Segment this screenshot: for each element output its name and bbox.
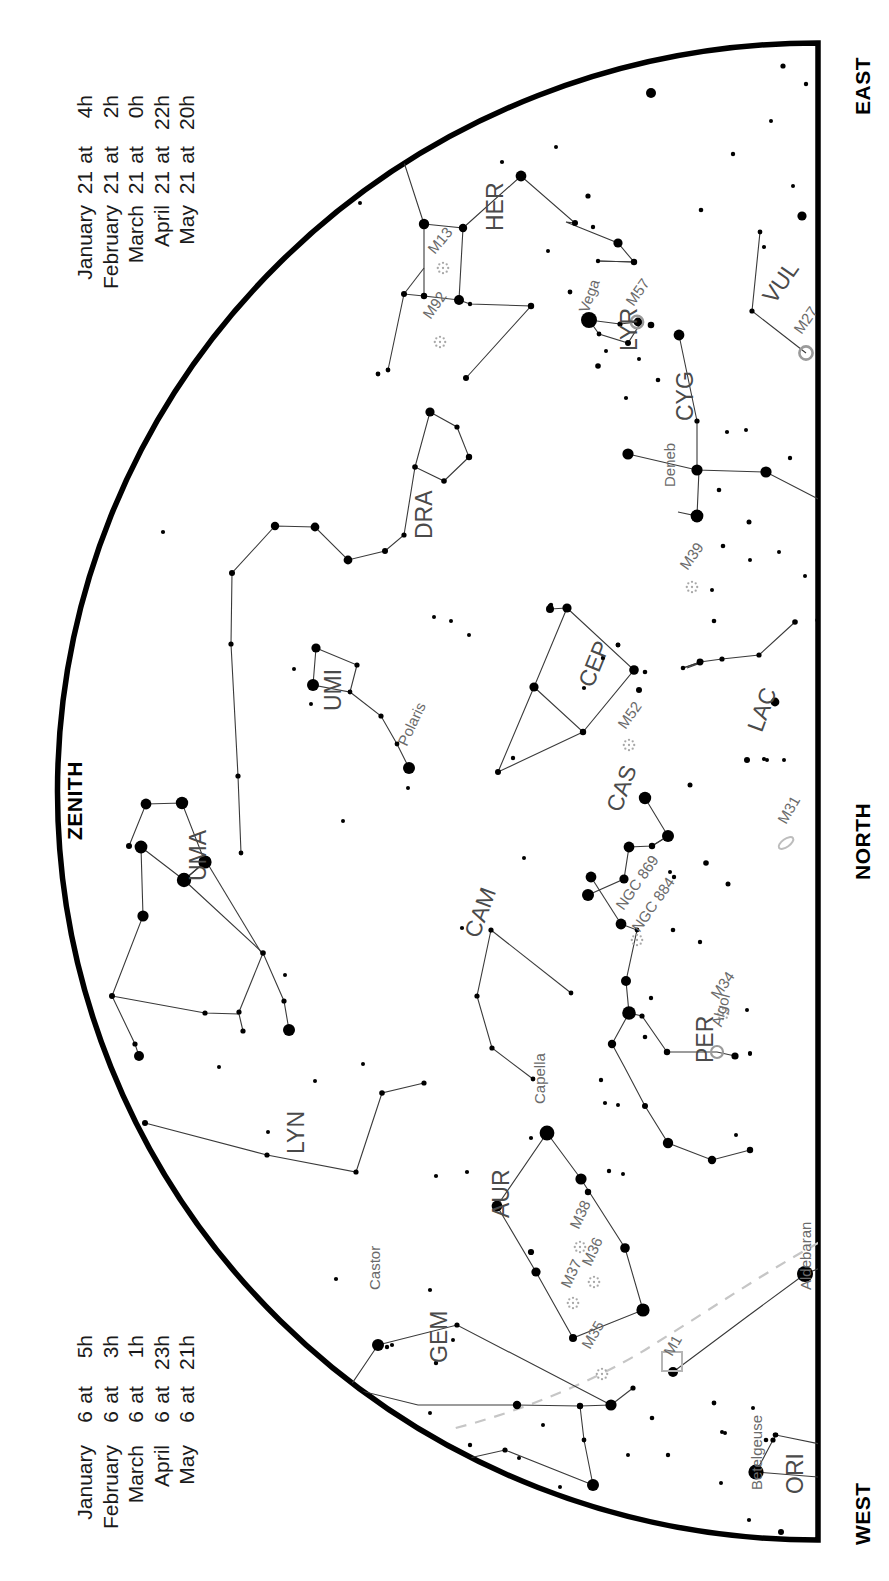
epoch-row: March6at1h bbox=[123, 1335, 149, 1545]
epoch-time: 4h bbox=[72, 95, 98, 139]
epoch-time: 22h bbox=[149, 95, 175, 139]
epoch-row: April21at22h bbox=[149, 95, 175, 305]
epoch-day: 6 bbox=[72, 1411, 98, 1445]
star-label-aldebaran: Aldebaran bbox=[797, 1222, 814, 1290]
star-label-betelgeuse: Betelgeuse bbox=[748, 1415, 765, 1490]
constellation-label-gem: GEM bbox=[426, 1311, 453, 1363]
constellation-label-cyg: CYG bbox=[672, 371, 699, 421]
epoch-at: at bbox=[123, 1379, 149, 1411]
epoch-time: 21h bbox=[174, 1335, 200, 1379]
epoch-day: 6 bbox=[123, 1411, 149, 1445]
constellation-label-dra: DRA bbox=[411, 490, 438, 539]
epoch-day: 6 bbox=[149, 1411, 175, 1445]
epoch-month: March bbox=[123, 205, 149, 305]
epoch-row: April6at23h bbox=[149, 1335, 175, 1545]
epoch-row: May6at21h bbox=[174, 1335, 200, 1545]
epoch-time: 1h bbox=[123, 1335, 149, 1379]
epoch-legend-upper: January21at4hFebruary21at2hMarch21at0hAp… bbox=[72, 95, 200, 305]
constellation-label-uma: UMA bbox=[185, 830, 212, 881]
epoch-time: 20h bbox=[174, 95, 200, 139]
epoch-month: January bbox=[72, 1445, 98, 1545]
epoch-legend-lower: January6at5hFebruary6at3hMarch6at1hApril… bbox=[72, 1335, 200, 1545]
epoch-at: at bbox=[149, 1379, 175, 1411]
epoch-at: at bbox=[123, 139, 149, 171]
epoch-row: January21at4h bbox=[72, 95, 98, 305]
epoch-day: 6 bbox=[174, 1411, 200, 1445]
constellation-label-lyn: LYN bbox=[283, 1111, 310, 1154]
constellation-label-her: HER bbox=[482, 182, 509, 231]
star-chart-page: HERLYRCYGVULDRAUMICEPLACCASUMACAMPERLYNA… bbox=[0, 0, 889, 1581]
epoch-month: February bbox=[98, 1445, 124, 1545]
epoch-row: February6at3h bbox=[98, 1335, 124, 1545]
star-label-capella: Capella bbox=[531, 1053, 548, 1104]
epoch-month: May bbox=[174, 205, 200, 305]
epoch-day: 6 bbox=[98, 1411, 124, 1445]
epoch-day: 21 bbox=[123, 171, 149, 205]
epoch-time: 5h bbox=[72, 1335, 98, 1379]
epoch-at: at bbox=[174, 139, 200, 171]
epoch-row: February21at2h bbox=[98, 95, 124, 305]
constellation-label-lyr: LYR bbox=[616, 308, 643, 351]
zenith-label: ZENITH bbox=[63, 761, 87, 840]
constellation-label-aur: AUR bbox=[488, 1169, 515, 1218]
epoch-month: April bbox=[149, 205, 175, 305]
west-label: WEST bbox=[851, 1482, 875, 1545]
north-label: NORTH bbox=[851, 803, 875, 880]
epoch-time: 3h bbox=[98, 1335, 124, 1379]
epoch-at: at bbox=[72, 139, 98, 171]
epoch-day: 21 bbox=[98, 171, 124, 205]
epoch-at: at bbox=[98, 1379, 124, 1411]
star-label-deneb: Deneb bbox=[661, 443, 678, 487]
epoch-month: February bbox=[98, 205, 124, 305]
epoch-row: January6at5h bbox=[72, 1335, 98, 1545]
epoch-at: at bbox=[72, 1379, 98, 1411]
star-label-castor: Castor bbox=[366, 1246, 383, 1290]
epoch-day: 21 bbox=[149, 171, 175, 205]
epoch-day: 21 bbox=[72, 171, 98, 205]
epoch-at: at bbox=[149, 139, 175, 171]
epoch-time: 2h bbox=[98, 95, 124, 139]
epoch-month: April bbox=[149, 1445, 175, 1545]
epoch-time: 23h bbox=[149, 1335, 175, 1379]
epoch-at: at bbox=[174, 1379, 200, 1411]
east-label: EAST bbox=[851, 57, 875, 115]
epoch-month: January bbox=[72, 205, 98, 305]
constellation-label-umi: UMI bbox=[320, 669, 347, 711]
constellation-label-ori: ORI bbox=[782, 1453, 809, 1494]
epoch-row: March21at0h bbox=[123, 95, 149, 305]
epoch-at: at bbox=[98, 139, 124, 171]
epoch-month: May bbox=[174, 1445, 200, 1545]
epoch-time: 0h bbox=[123, 95, 149, 139]
epoch-row: May21at20h bbox=[174, 95, 200, 305]
epoch-month: March bbox=[123, 1445, 149, 1545]
epoch-day: 21 bbox=[174, 171, 200, 205]
